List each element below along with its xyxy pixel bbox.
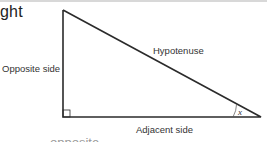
cropped-caption: opposite [50,135,99,142]
angle-arc [233,104,237,117]
triangle-outline [63,10,261,117]
right-angle-marker [63,110,70,117]
angle-label: x [237,107,242,117]
adjacent-side-label: Adjacent side [136,124,193,135]
triangle [63,10,261,117]
opposite-side-label: Opposite side [2,63,60,74]
hypotenuse-label: Hypotenuse [153,45,204,56]
